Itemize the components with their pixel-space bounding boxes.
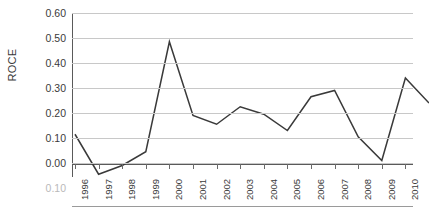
x-tick-label: 2010 <box>409 179 420 200</box>
gridline <box>72 38 413 39</box>
y-tick-label: 0.00 <box>46 158 66 168</box>
x-tick <box>193 164 194 169</box>
y-tick-label: 0.10 <box>46 183 66 193</box>
x-tick-label: 1998 <box>126 179 137 200</box>
x-tick <box>122 164 123 169</box>
x-tick-label: 2000 <box>173 179 184 200</box>
plot-area <box>72 13 413 165</box>
x-tick-label: 2009 <box>386 179 397 200</box>
x-tick-label: 2008 <box>362 179 373 200</box>
x-tick-label: 1997 <box>103 179 114 200</box>
x-tick <box>99 164 100 169</box>
x-tick <box>75 164 76 169</box>
x-tick <box>405 164 406 169</box>
y-tick-label: 0.10 <box>46 133 66 143</box>
y-tick-label: 0.50 <box>46 33 66 43</box>
y-tick-label: 0.40 <box>46 58 66 68</box>
x-tick-label: 2007 <box>339 179 350 200</box>
x-tick-label: 1996 <box>79 179 90 200</box>
y-tick-label: 0.20 <box>46 108 66 118</box>
x-tick-label: 2004 <box>268 179 279 200</box>
x-tick <box>169 164 170 169</box>
gridline <box>72 13 413 14</box>
x-tick-label: 2005 <box>291 179 302 200</box>
roce-line-chart: ROCE 0.600.500.400.300.200.100.000.10 19… <box>0 0 429 213</box>
x-tick-label: 2002 <box>221 179 232 200</box>
x-tick <box>217 164 218 169</box>
x-tick-label: 2001 <box>197 179 208 200</box>
x-tick <box>358 164 359 169</box>
x-tick <box>287 164 288 169</box>
x-tick <box>146 164 147 169</box>
x-tick <box>382 164 383 169</box>
series-polyline <box>75 42 429 175</box>
x-tick-label: 1999 <box>150 179 161 200</box>
x-tick-label: 2003 <box>244 179 255 200</box>
bottom-rule <box>72 206 413 207</box>
gridline <box>72 88 413 89</box>
y-axis-tick-labels: 0.600.500.400.300.200.100.000.10 <box>0 0 72 213</box>
x-tick <box>335 164 336 169</box>
gridline <box>72 138 413 139</box>
gridline <box>72 63 413 64</box>
gridline <box>72 113 413 114</box>
y-tick-label: 0.30 <box>46 83 66 93</box>
x-tick <box>240 164 241 169</box>
y-tick-label: 0.60 <box>46 8 66 18</box>
x-tick <box>311 164 312 169</box>
x-tick-label: 2006 <box>315 179 326 200</box>
x-tick <box>264 164 265 169</box>
